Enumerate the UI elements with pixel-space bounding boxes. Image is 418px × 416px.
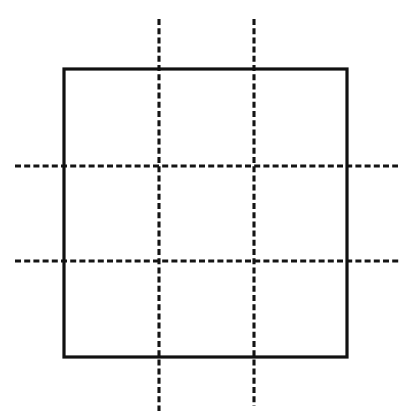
figure-canvas	[0, 0, 418, 416]
figure-svg	[0, 0, 418, 416]
